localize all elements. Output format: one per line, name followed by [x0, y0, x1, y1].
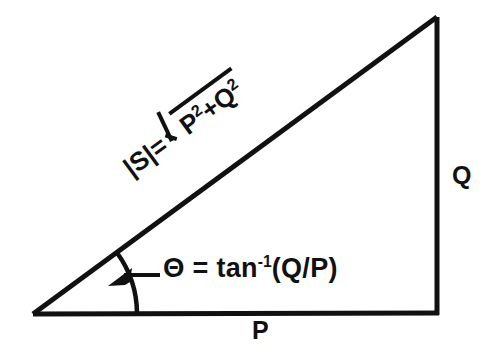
angle-equals-sign: = [193, 253, 209, 283]
angle-leader-arrowhead [108, 268, 132, 286]
label-phase-angle-expression: Θ = tan-1(Q/P) [163, 254, 338, 282]
triangle-drawing [0, 0, 497, 356]
label-reactive-power-q: Q [452, 163, 472, 188]
power-triangle-figure: P Q |S|=P2+Q2 Θ = tan-1(Q/P) [0, 0, 497, 356]
arctangent-exponent: -1 [258, 253, 272, 270]
arctangent-function: tan [216, 253, 257, 283]
theta-symbol: Θ [163, 252, 185, 283]
triangle-side-base [33, 313, 439, 314]
arctangent-argument: (Q/P) [272, 253, 338, 283]
label-real-power-p: P [252, 318, 269, 343]
